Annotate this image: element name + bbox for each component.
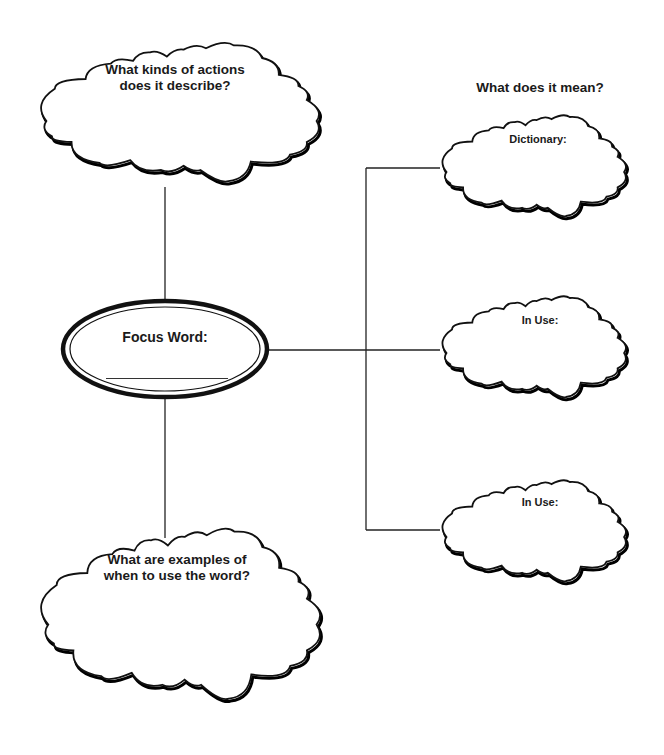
meaning-heading: What does it mean? xyxy=(440,80,640,96)
concept-map-canvas xyxy=(0,0,664,755)
focus-word-answer-line[interactable] xyxy=(106,378,228,379)
cloud-dictionary[interactable] xyxy=(442,115,627,219)
focus-oval-outer-ring xyxy=(63,301,267,397)
actions-prompt-line1: What kinds of actions xyxy=(95,62,255,78)
examples-prompt-line2: when to use the word? xyxy=(92,568,262,584)
examples-prompt-line1: What are examples of xyxy=(92,552,262,568)
focus-word-oval[interactable] xyxy=(63,301,267,397)
dictionary-label: Dictionary: xyxy=(488,133,588,146)
actions-prompt-line2: does it describe? xyxy=(95,78,255,94)
focus-word-label: Focus Word: xyxy=(105,329,225,346)
in-use-2-label: In Use: xyxy=(500,496,580,509)
cloud-in-use-1[interactable] xyxy=(442,296,627,400)
in-use-1-label: In Use: xyxy=(500,314,580,327)
examples-prompt: What are examples of when to use the wor… xyxy=(92,552,262,585)
actions-prompt: What kinds of actions does it describe? xyxy=(95,62,255,95)
